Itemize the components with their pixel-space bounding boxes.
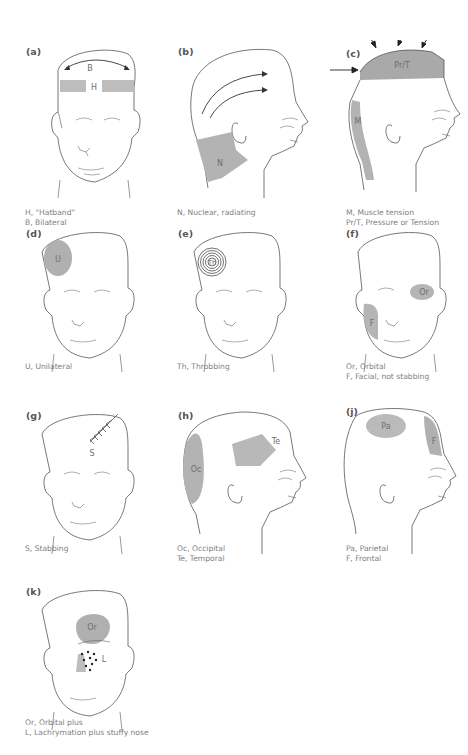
panel-h-occipital-temporal: (h) Oc Te Oc, Occipital Te, Temporal (172, 404, 322, 594)
bilateral-arrow-icon (66, 60, 128, 68)
region-abbr-th: Th (207, 259, 217, 267)
front-head-illustration: Th (172, 222, 322, 382)
profile-head-illustration: Pr/T M (320, 40, 468, 200)
panel-a-hatband-bilateral: (a) B H H, "Hatband" B, Bilateral (20, 40, 170, 230)
hatband-region-left (60, 80, 86, 92)
panel-b-nuclear: (b) N N, Nuclear, radiating (172, 40, 322, 230)
region-abbr-f: F (432, 437, 437, 446)
panel-k-orbital-lachrymation: (k) Or L Or, Orbital plus L, Lachrymatio… (20, 586, 170, 755)
muscle-tension-region (351, 100, 374, 180)
front-head-illustration: S (20, 404, 170, 564)
region-abbr-n: N (217, 159, 223, 168)
region-abbr-m: M (355, 117, 362, 126)
region-abbr-l: L (102, 655, 107, 664)
panel-e-throbbing: (e) Th Th, Throbbing (172, 222, 322, 412)
radiating-arrow-icon (210, 90, 264, 118)
front-head-illustration: U (20, 222, 170, 382)
region-abbr-b: B (87, 64, 93, 73)
profile-head-illustration: N (172, 40, 322, 200)
region-abbr-u: U (55, 255, 61, 264)
region-abbr-or: Or (87, 623, 97, 632)
region-abbr-h: H (91, 83, 97, 92)
radiating-arrow-icon (202, 74, 264, 114)
panel-caption: N, Nuclear, radiating (177, 208, 256, 218)
panel-caption: Or, Orbital plus L, Lachrymation plus st… (25, 718, 149, 737)
region-abbr-te: Te (271, 437, 281, 446)
region-abbr-pa: Pa (381, 422, 390, 431)
nose-region (76, 654, 86, 672)
panel-f-orbital-facial: (f) Or F Or, Orbital F, Facial, not stab… (320, 222, 468, 412)
panel-caption: Oc, Occipital Te, Temporal (177, 544, 225, 563)
panel-c-muscle-tension: (c) Pr/T M M, Muscle tension Pr/T, Press… (320, 40, 468, 230)
panel-caption: Pa, Parietal F, Frontal (346, 544, 388, 563)
panel-caption: U, Unilateral (25, 362, 72, 372)
region-abbr-oc: Oc (191, 465, 202, 474)
stabbing-chevrons-icon (90, 414, 118, 444)
hatband-region-right (102, 80, 134, 92)
panel-g-stabbing: (g) S S, Stabbing (20, 404, 170, 594)
panel-caption: Th, Throbbing (177, 362, 230, 372)
panel-d-unilateral: (d) U U, Unilateral (20, 222, 170, 412)
nuclear-region (196, 132, 248, 182)
panel-j-parietal-frontal: (j) Pa F Pa, Parietal F, Frontal (320, 404, 468, 594)
panel-caption: Or, Orbital F, Facial, not stabbing (346, 362, 429, 381)
panel-caption: S, Stabbing (25, 544, 68, 554)
region-abbr-s: S (89, 449, 94, 458)
temporal-region (232, 434, 276, 466)
front-head-illustration: Or F (320, 222, 468, 382)
region-abbr-f: F (370, 319, 375, 328)
profile-head-illustration: Oc Te (172, 404, 322, 564)
profile-head-illustration: Pa F (320, 404, 468, 564)
frontal-region (424, 416, 442, 456)
region-abbr-or: Or (419, 288, 429, 297)
region-abbr-pr-t: Pr/T (394, 61, 410, 70)
front-head-illustration: B H (20, 40, 170, 200)
